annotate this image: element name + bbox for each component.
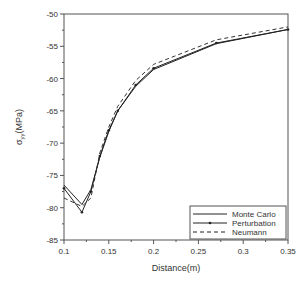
data-lines <box>63 27 290 214</box>
y-tick-label: -85 <box>46 236 58 245</box>
x-axis-label: Distance(m) <box>152 263 201 273</box>
series-perturbation <box>64 29 288 212</box>
legend: Monte CarloPerturbationNeumann <box>190 206 286 239</box>
x-tick-label: 0.25 <box>191 247 207 256</box>
y-tick-label: -50 <box>46 10 58 19</box>
y-axis-label: σyy(MPa) <box>14 109 25 145</box>
y-tick-label: -80 <box>46 204 58 213</box>
y-tick-label: -55 <box>46 42 58 51</box>
x-tick-label: 0.35 <box>280 247 296 256</box>
y-tick-label: -70 <box>46 139 58 148</box>
x-tick-label: 0.1 <box>58 247 70 256</box>
legend-label: Perturbation <box>232 219 276 228</box>
series-neumann <box>64 27 288 207</box>
x-tick-label: 0.15 <box>101 247 117 256</box>
y-tick-label: -75 <box>46 171 58 180</box>
line-chart: -50-55-60-65-70-75-80-850.10.150.20.250.… <box>0 0 308 287</box>
series-monte-carlo <box>64 29 288 204</box>
y-tick-label: -60 <box>46 75 58 84</box>
legend-label: Monte Carlo <box>232 210 276 219</box>
legend-label: Neumann <box>232 228 267 237</box>
x-tick-label: 0.3 <box>238 247 250 256</box>
x-tick-label: 0.2 <box>148 247 160 256</box>
y-tick-label: -65 <box>46 107 58 116</box>
